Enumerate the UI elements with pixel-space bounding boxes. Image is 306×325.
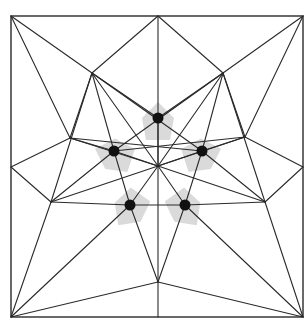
dot-upper-left (109, 146, 120, 157)
crease-line (92, 73, 114, 151)
crease-pattern-diagram (0, 0, 306, 325)
crease-line (202, 151, 265, 202)
crease-line (158, 16, 223, 73)
crease-line (11, 205, 130, 317)
crease-line (158, 282, 303, 317)
crease-line (265, 202, 303, 317)
crease-line (51, 151, 114, 202)
crease-lines (11, 16, 303, 317)
crease-line (11, 282, 158, 317)
crease-line (11, 138, 70, 167)
dot-top (153, 113, 164, 124)
crease-line (130, 205, 158, 282)
crease-line (11, 202, 51, 317)
dot-upper-right (197, 146, 208, 157)
crease-line (11, 16, 70, 138)
crease-line (158, 205, 185, 282)
crease-line (223, 16, 303, 73)
crease-line (245, 16, 303, 137)
crease-line (51, 73, 92, 202)
dot-lower-right (180, 200, 191, 211)
crease-line (92, 16, 158, 73)
dot-lower-left (125, 200, 136, 211)
crease-line (11, 167, 51, 202)
crease-line (265, 167, 303, 202)
crease-line (185, 205, 303, 317)
crease-line (245, 137, 303, 167)
crease-line (11, 16, 92, 73)
